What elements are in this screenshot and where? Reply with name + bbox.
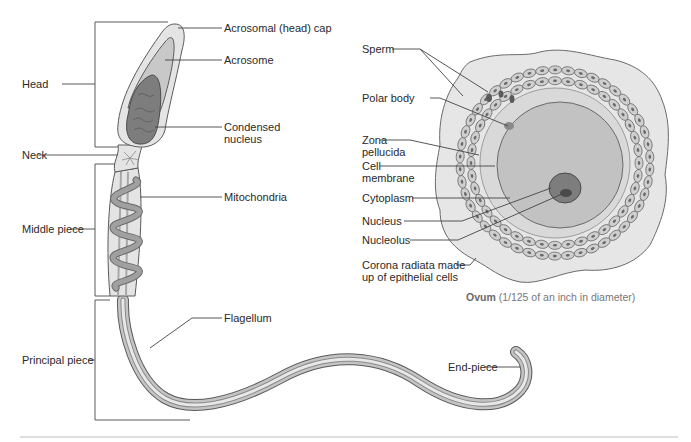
label-acrosomal-cap: Acrosomal (head) cap	[224, 22, 332, 34]
label-condensed-nucleus-line1: Condensed	[224, 121, 280, 133]
label-zona-pellucida-line2: pellucida	[362, 146, 405, 158]
polar-body-shape	[504, 122, 514, 130]
label-corona-radiata-line1: Corona radiata made	[362, 259, 465, 271]
label-middle-piece: Middle piece	[22, 223, 84, 235]
label-corona-radiata-line2: up of epithelial cells	[362, 271, 458, 283]
ovum-caption-title: Ovum	[466, 291, 496, 303]
label-head: Head	[22, 78, 48, 90]
flagellum-shape	[123, 300, 526, 405]
label-polar-body: Polar body	[362, 92, 415, 104]
label-sperm: Sperm	[362, 43, 394, 55]
label-end-piece: End-piece	[448, 361, 498, 373]
label-condensed-nucleus-line2: nucleus	[224, 133, 262, 145]
nucleolus-shape	[560, 189, 572, 197]
label-acrosome: Acrosome	[224, 54, 274, 66]
label-nucleolus: Nucleolus	[362, 234, 410, 246]
label-cytoplasm: Cytoplasm	[362, 192, 414, 204]
reproductive-cells-diagram	[0, 0, 691, 442]
label-zona-pellucida-line1: Zona	[362, 134, 387, 146]
ovum-caption: Ovum (1/125 of an inch in diameter)	[466, 291, 635, 303]
label-nucleus: Nucleus	[362, 215, 402, 227]
label-mitochondria: Mitochondria	[224, 191, 287, 203]
ovum-caption-detail: (1/125 of an inch in diameter)	[496, 291, 636, 303]
cytoplasm-shape	[497, 102, 623, 228]
label-flagellum: Flagellum	[224, 312, 272, 324]
label-neck: Neck	[22, 149, 47, 161]
ovum-illustration	[380, 49, 668, 282]
nucleus-shape	[549, 173, 581, 203]
label-cell-membrane-line2: membrane	[362, 172, 415, 184]
label-principal-piece: Principal piece	[22, 354, 94, 366]
label-cell-membrane-line1: Cell	[362, 160, 381, 172]
